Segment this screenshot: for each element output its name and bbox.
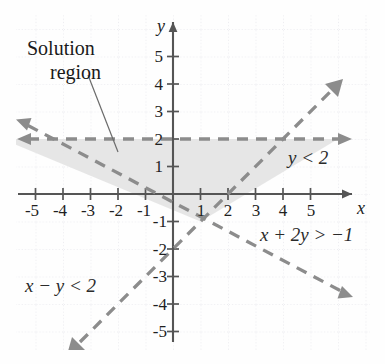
inequality-label-x-minus-y-less-than-2: x − y < 2: [24, 275, 97, 296]
solution-region-label-line2: region: [50, 61, 101, 84]
y-tick-label: -5: [153, 322, 167, 341]
solution-region-label-line1: Solution: [27, 37, 95, 59]
x-tick-label: -5: [25, 201, 39, 220]
y-tick-label: -1: [153, 212, 167, 231]
x-axis-label: x: [356, 198, 365, 218]
y-tick-label: 4: [155, 75, 164, 94]
x-tick-label: -4: [53, 201, 68, 220]
x-tick-label: 2: [224, 201, 233, 220]
y-tick-label: -2: [153, 240, 167, 259]
inequality-label-y-less-than-2: y < 2: [286, 147, 329, 168]
x-tick-label: -1: [137, 201, 151, 220]
x-tick-label: 5: [307, 201, 316, 220]
y-axis-label: y: [155, 16, 165, 36]
y-tick-label: 3: [155, 102, 164, 121]
y-tick-label: 1: [155, 157, 164, 176]
y-tick-label: 2: [155, 130, 164, 149]
x-tick-label: 3: [252, 201, 261, 220]
x-tick-label: -2: [109, 201, 123, 220]
y-tick-label: -4: [153, 295, 168, 314]
y-tick-label: -3: [153, 267, 167, 286]
figure-canvas: Solution region y < 2 x + 2y > −1 x − y …: [0, 0, 385, 364]
x-tick-label: 1: [197, 201, 206, 220]
inequality-label-x-plus-2y-greater-than-neg1: x + 2y > −1: [259, 224, 353, 245]
x-tick-label: 4: [279, 201, 288, 220]
inequality-graph: Solution region y < 2 x + 2y > −1 x − y …: [0, 0, 385, 364]
x-tick-label: -3: [81, 201, 95, 220]
y-tick-label: 5: [155, 47, 164, 66]
